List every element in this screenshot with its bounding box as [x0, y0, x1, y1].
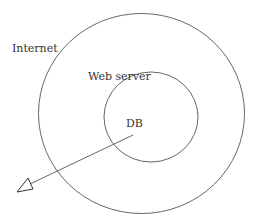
diagram-graphics — [0, 0, 253, 223]
connection-arrow-line — [30, 135, 133, 184]
zone-diagram: Internet Web server DB — [0, 0, 253, 223]
internet-label: Internet — [12, 43, 58, 54]
web-server-label: Web server — [88, 71, 151, 82]
web-server-zone-circle — [104, 72, 198, 162]
db-label: DB — [126, 118, 143, 129]
arrowhead-icon — [17, 178, 33, 192]
internet-zone-circle — [39, 14, 245, 214]
